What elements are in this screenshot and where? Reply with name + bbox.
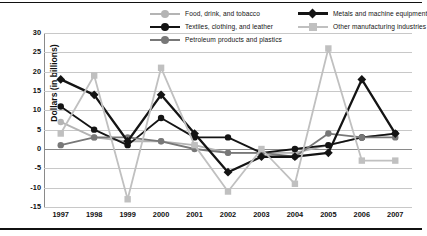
data-point-marker xyxy=(324,148,333,157)
data-point-marker xyxy=(91,126,97,132)
legend-label: Metals and machine equipment xyxy=(333,10,427,17)
data-point-marker xyxy=(158,138,164,144)
data-point-marker xyxy=(325,130,331,136)
data-point-marker xyxy=(225,134,231,140)
legend-swatch-icon xyxy=(298,22,328,31)
data-point-marker xyxy=(191,142,197,148)
data-point-marker xyxy=(292,146,298,152)
y-axis-tick-label: -5 xyxy=(3,163,41,172)
y-axis-tick-label: 5 xyxy=(3,125,41,134)
top-divider xyxy=(0,2,422,3)
x-axis-tick-label: 2007 xyxy=(375,210,415,219)
series-lines xyxy=(44,33,412,207)
data-point-marker xyxy=(225,188,231,194)
y-axis-ticks: 302520151050-5-10-15 xyxy=(0,33,41,207)
legend-label: Food, drink, and tobacco xyxy=(185,10,260,17)
x-axis-line xyxy=(0,228,422,230)
data-point-marker xyxy=(58,119,64,125)
data-point-marker xyxy=(359,157,365,163)
legend-label: Other manufacturing industries xyxy=(333,23,426,30)
series-line xyxy=(61,48,396,199)
y-axis-tick-label: 10 xyxy=(3,105,41,114)
data-point-marker xyxy=(292,181,298,187)
data-point-marker xyxy=(258,146,264,152)
y-axis-tick-label: 15 xyxy=(3,86,41,95)
y-axis-tick-label: 30 xyxy=(3,28,41,37)
y-axis-tick-label: 20 xyxy=(3,67,41,76)
data-point-marker xyxy=(359,134,365,140)
data-point-marker xyxy=(124,196,130,202)
y-axis-tick-label: 0 xyxy=(3,144,41,153)
data-point-marker xyxy=(225,150,231,156)
x-axis-labels: 1997199819992000200120022003200420052006… xyxy=(44,210,412,224)
legend-item-other-manufacturing-industries[interactable]: Other manufacturing industries xyxy=(298,21,426,32)
legend-swatch-icon xyxy=(150,9,180,18)
legend-item-textiles-clothing-leather[interactable]: Textiles, clothing, and leather xyxy=(150,21,273,32)
data-point-marker xyxy=(58,142,64,148)
data-point-marker xyxy=(158,65,164,71)
legend-item-metals-machine-equipment[interactable]: Metals and machine equipment xyxy=(298,8,427,19)
data-point-marker xyxy=(158,115,164,121)
y-axis-tick-label: -15 xyxy=(3,202,41,211)
legend-label: Textiles, clothing, and leather xyxy=(185,23,273,30)
y-axis-tick-label: -10 xyxy=(3,183,41,192)
data-point-marker xyxy=(91,72,97,78)
gridline xyxy=(44,207,412,208)
y-axis-tick-label: 25 xyxy=(3,47,41,56)
data-point-marker xyxy=(91,134,97,140)
data-point-marker xyxy=(58,130,64,136)
plot-area xyxy=(44,33,412,207)
legend-item-food-drink-tobacco[interactable]: Food, drink, and tobacco xyxy=(150,8,260,19)
legend-swatch-icon xyxy=(150,22,180,31)
data-point-marker xyxy=(392,157,398,163)
data-point-marker xyxy=(325,45,331,51)
data-point-marker xyxy=(58,103,64,109)
data-point-marker xyxy=(56,75,65,84)
legend-swatch-icon xyxy=(298,9,328,18)
series-line xyxy=(61,79,396,172)
